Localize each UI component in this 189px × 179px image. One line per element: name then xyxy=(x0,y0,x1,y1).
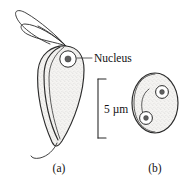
nucleus-label: Nucleus xyxy=(94,52,132,64)
cyst-karyosome-lower xyxy=(144,116,149,121)
panel-label-b: (b) xyxy=(148,162,162,175)
figure-root: Nucleus (a) 5 µm (b) xyxy=(0,0,189,179)
panel-label-a: (a) xyxy=(53,162,66,175)
karyosome xyxy=(65,56,71,62)
cyst-nucleus-upper xyxy=(156,86,169,99)
protozoan-figure: Nucleus (a) 5 µm (b) xyxy=(0,0,189,179)
cyst-nucleus-lower xyxy=(140,112,153,125)
cyst-wall xyxy=(132,73,178,133)
cyst-karyosome-upper xyxy=(160,90,165,95)
nucleus-group xyxy=(60,51,76,67)
scale-bar-label: 5 µm xyxy=(104,103,128,116)
